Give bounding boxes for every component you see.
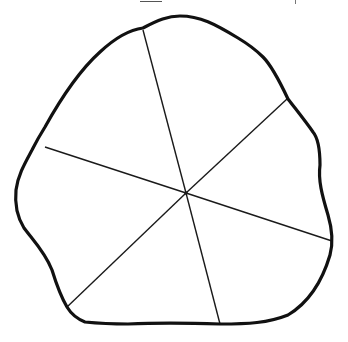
shape-outline <box>16 16 332 324</box>
spoke-top-right <box>186 99 287 193</box>
divided-shape-diagram <box>0 0 348 342</box>
spoke-bottom <box>186 193 220 324</box>
spoke-top <box>143 30 186 193</box>
spoke-bottom-left <box>67 193 186 307</box>
spoke-lines <box>45 30 332 324</box>
spoke-right <box>186 193 332 241</box>
figure-canvas <box>0 0 348 342</box>
center-point <box>184 191 188 195</box>
cropped-text-fragment-underline <box>140 1 162 2</box>
cropped-text-fragment-mark <box>295 0 296 4</box>
spoke-left <box>45 147 186 193</box>
